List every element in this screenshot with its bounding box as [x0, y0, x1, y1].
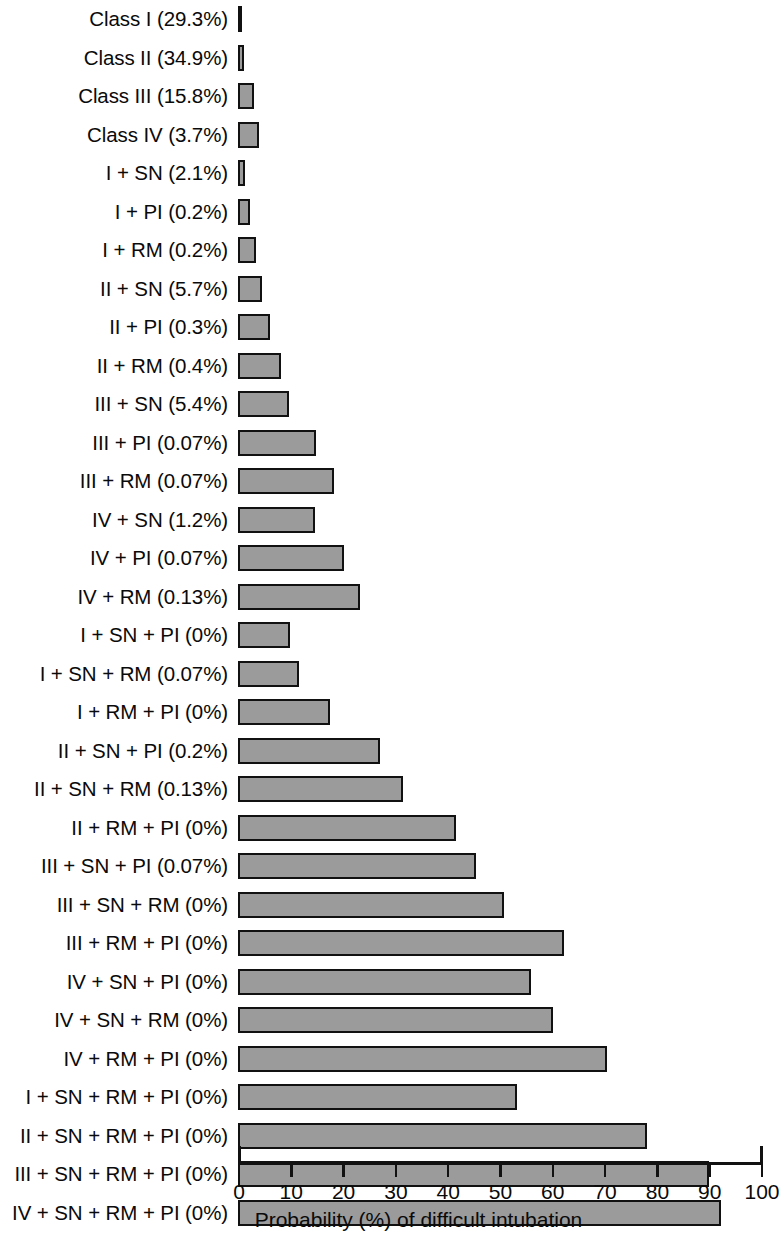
bar-row: III + RM (0.07%)	[0, 462, 779, 501]
bar-track	[239, 1117, 779, 1156]
bar-row-label: I + SN (2.1%)	[106, 154, 228, 193]
bar	[238, 622, 290, 648]
bar-row: III + SN + PI (0.07%)	[0, 847, 779, 886]
bar-rows: Class I (29.3%)Class II (34.9%)Class III…	[0, 0, 779, 1232]
bar-row: I + RM + PI (0%)	[0, 693, 779, 732]
bar-row: Class II (34.9%)	[0, 39, 779, 78]
bar-row-label: IV + PI (0.07%)	[90, 539, 228, 578]
bar-row-label: II + RM + PI (0%)	[71, 809, 228, 848]
bar-row: II + SN + RM (0.13%)	[0, 770, 779, 809]
bar-row-label: II + SN (5.7%)	[100, 270, 228, 309]
bar-row-label: III + SN (5.4%)	[94, 385, 228, 424]
bar-row: Class IV (3.7%)	[0, 116, 779, 155]
bar-row-label: IV + SN + PI (0%)	[67, 963, 228, 1002]
bar	[238, 1123, 647, 1149]
bar-row: I + SN + RM (0.07%)	[0, 655, 779, 694]
bar-row-label: III + SN + RM + PI (0%)	[14, 1155, 228, 1194]
bar-track	[239, 655, 779, 694]
bar-row: Class III (15.8%)	[0, 77, 779, 116]
bar-row: I + RM (0.2%)	[0, 231, 779, 270]
axis-right-cap	[760, 1146, 763, 1163]
bar-row: II + SN (5.7%)	[0, 270, 779, 309]
bar-row: II + SN + PI (0.2%)	[0, 732, 779, 771]
bar-row-label: I + SN + PI (0%)	[80, 616, 228, 655]
bar-track	[239, 1078, 779, 1117]
bar	[238, 507, 315, 533]
bar-row: I + SN + PI (0%)	[0, 616, 779, 655]
bar	[238, 699, 330, 725]
bar-row-label: Class II (34.9%)	[84, 39, 228, 78]
bar-row: II + SN + RM + PI (0%)	[0, 1117, 779, 1156]
x-axis-tick	[656, 1165, 659, 1177]
bar	[238, 776, 403, 802]
bar-track	[239, 0, 779, 39]
bar-track	[239, 539, 779, 578]
bar-row-label: Class III (15.8%)	[78, 77, 228, 116]
bar	[238, 1007, 553, 1033]
x-axis-tick	[761, 1165, 764, 1177]
x-axis-tick	[708, 1165, 711, 1177]
bar-track	[239, 424, 779, 463]
bar-row-label: IV + RM (0.13%)	[77, 578, 228, 617]
bar-row: II + RM + PI (0%)	[0, 809, 779, 848]
bar-track	[239, 308, 779, 347]
bar-track	[239, 809, 779, 848]
bar-row-label: III + PI (0.07%)	[92, 424, 228, 463]
bar	[238, 1046, 607, 1072]
bar-row-label: III + SN + RM (0%)	[57, 886, 228, 925]
bar	[238, 160, 245, 186]
bar	[238, 353, 281, 379]
bar	[238, 199, 250, 225]
bar	[238, 584, 360, 610]
bar-track	[239, 770, 779, 809]
bar-row: I + SN + RM + PI (0%)	[0, 1078, 779, 1117]
bar	[238, 930, 564, 956]
bar-track	[239, 578, 779, 617]
bar-row: IV + SN (1.2%)	[0, 501, 779, 540]
x-axis-tick	[552, 1165, 555, 1177]
bar-row-label: III + RM (0.07%)	[80, 462, 228, 501]
bar-row-label: IV + RM + PI (0%)	[63, 1040, 228, 1079]
bar	[238, 892, 504, 918]
bar-row-label: Class IV (3.7%)	[87, 116, 228, 155]
bar-track	[239, 193, 779, 232]
x-axis-tick	[604, 1165, 607, 1177]
bar-row: IV + PI (0.07%)	[0, 539, 779, 578]
bar	[238, 276, 262, 302]
bar	[238, 314, 270, 340]
bar-row-label: I + RM + PI (0%)	[77, 693, 228, 732]
bar-row-label: II + SN + PI (0.2%)	[58, 732, 228, 771]
bar-track	[239, 116, 779, 155]
bar-row-label: I + PI (0.2%)	[115, 193, 228, 232]
bar-track	[239, 270, 779, 309]
x-axis-tick-label: 100	[727, 1180, 784, 1204]
bar-row-label: I + RM (0.2%)	[102, 231, 228, 270]
x-axis-tick	[342, 1165, 345, 1177]
bar	[238, 815, 456, 841]
bar-row: IV + SN + PI (0%)	[0, 963, 779, 1002]
bar-track	[239, 347, 779, 386]
bar-track	[239, 462, 779, 501]
bar	[238, 738, 380, 764]
bar-track	[239, 154, 779, 193]
bar	[238, 545, 344, 571]
x-axis-tick	[499, 1165, 502, 1177]
bar-row-label: IV + SN (1.2%)	[92, 501, 228, 540]
bar-row-label: III + RM + PI (0%)	[66, 924, 228, 963]
bar	[238, 6, 242, 32]
bar-row-label: Class I (29.3%)	[89, 0, 228, 39]
bar-row: III + SN + RM (0%)	[0, 886, 779, 925]
bar-row-label: II + PI (0.3%)	[109, 308, 228, 347]
bar	[238, 661, 299, 687]
bar-row: I + PI (0.2%)	[0, 193, 779, 232]
bar-row-label: IV + SN + RM (0%)	[54, 1001, 228, 1040]
bar	[238, 391, 289, 417]
bar-row: IV + SN + RM (0%)	[0, 1001, 779, 1040]
bar	[238, 1084, 517, 1110]
bar	[238, 969, 531, 995]
bar-track	[239, 231, 779, 270]
bar-track	[239, 39, 779, 78]
bar-track	[239, 1040, 779, 1079]
bar-row-label: II + RM (0.4%)	[97, 347, 228, 386]
